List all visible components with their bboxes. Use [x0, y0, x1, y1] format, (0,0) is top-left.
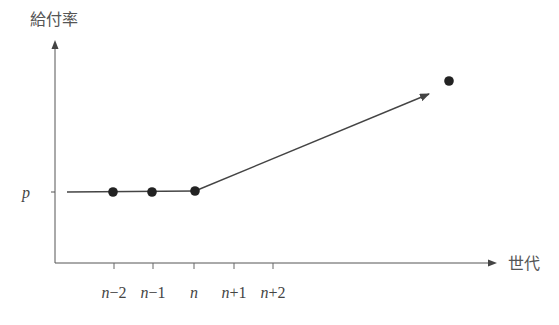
y-axis-arrow-icon [52, 40, 59, 49]
x-tick-label: n−1 [140, 284, 165, 301]
benefit-rate-diagram: 給付率 世代 p n−2 n−1 n n+1 n+2 [0, 0, 559, 325]
x-axis-label: 世代 [508, 254, 540, 273]
data-point-isolated [444, 76, 454, 86]
data-point-n [190, 186, 200, 196]
rising-arrow [195, 94, 429, 191]
x-tick-label: n [190, 284, 198, 301]
flat-rate-line [67, 191, 195, 192]
x-tick-labels: n−2 n−1 n n+1 n+2 [101, 284, 285, 301]
data-point-n-minus-1 [147, 187, 157, 197]
x-ticks [114, 263, 273, 269]
x-tick-label: n−2 [101, 284, 126, 301]
data-point-n-minus-2 [108, 187, 118, 197]
y-axis-label: 給付率 [30, 10, 78, 29]
x-tick-label: n+1 [221, 284, 246, 301]
x-axis-arrow-icon [488, 260, 497, 267]
y-tick-label-p: p [21, 184, 30, 202]
x-tick-label: n+2 [260, 284, 285, 301]
